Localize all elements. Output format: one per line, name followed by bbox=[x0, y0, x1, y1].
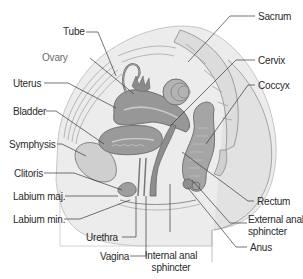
label-vagina: Vagina bbox=[100, 251, 129, 262]
label-labium-maj: Labium maj. bbox=[13, 191, 65, 202]
label-sacrum: Sacrum bbox=[258, 11, 291, 22]
bladder-organ bbox=[99, 126, 162, 155]
label-symphysis: Symphysis bbox=[9, 139, 56, 150]
label-anus: Anus bbox=[250, 242, 272, 253]
label-urethra: Urethra bbox=[86, 232, 118, 243]
label-ovary: Ovary bbox=[42, 52, 68, 63]
label-coccyx: Coccyx bbox=[258, 80, 290, 91]
label-tube: Tube bbox=[63, 26, 85, 37]
label-uterus: Uterus bbox=[13, 78, 41, 89]
label-cervix: Cervix bbox=[258, 55, 285, 66]
label-clitoris: Clitoris bbox=[14, 168, 43, 179]
sigmoid-colon bbox=[163, 79, 190, 105]
label-rectum: Rectum bbox=[257, 196, 290, 207]
anal-sphincter bbox=[183, 179, 193, 189]
label-internal-anal-sphincter-line1: Internal anal bbox=[135, 250, 207, 261]
label-bladder: Bladder bbox=[13, 106, 46, 117]
label-external-anal-sphincter-line2: sphincter bbox=[248, 226, 287, 237]
label-external-anal-sphincter-line1: External anal bbox=[248, 214, 303, 225]
label-internal-anal-sphincter-line2: sphincter bbox=[135, 262, 207, 273]
label-labium-min: Labium min. bbox=[13, 214, 65, 225]
